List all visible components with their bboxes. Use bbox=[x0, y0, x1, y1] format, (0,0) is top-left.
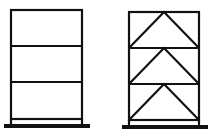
chevron-brace bbox=[129, 48, 199, 84]
unbraced-frame bbox=[4, 10, 90, 128]
base-plate bbox=[4, 124, 90, 128]
chevron-brace bbox=[129, 12, 199, 48]
frame-outline bbox=[11, 10, 82, 119]
frame-outline bbox=[129, 12, 199, 120]
base-plate bbox=[122, 125, 208, 129]
frames-diagram bbox=[0, 0, 213, 139]
chevron-brace bbox=[129, 84, 199, 120]
braced-frame bbox=[122, 12, 208, 129]
